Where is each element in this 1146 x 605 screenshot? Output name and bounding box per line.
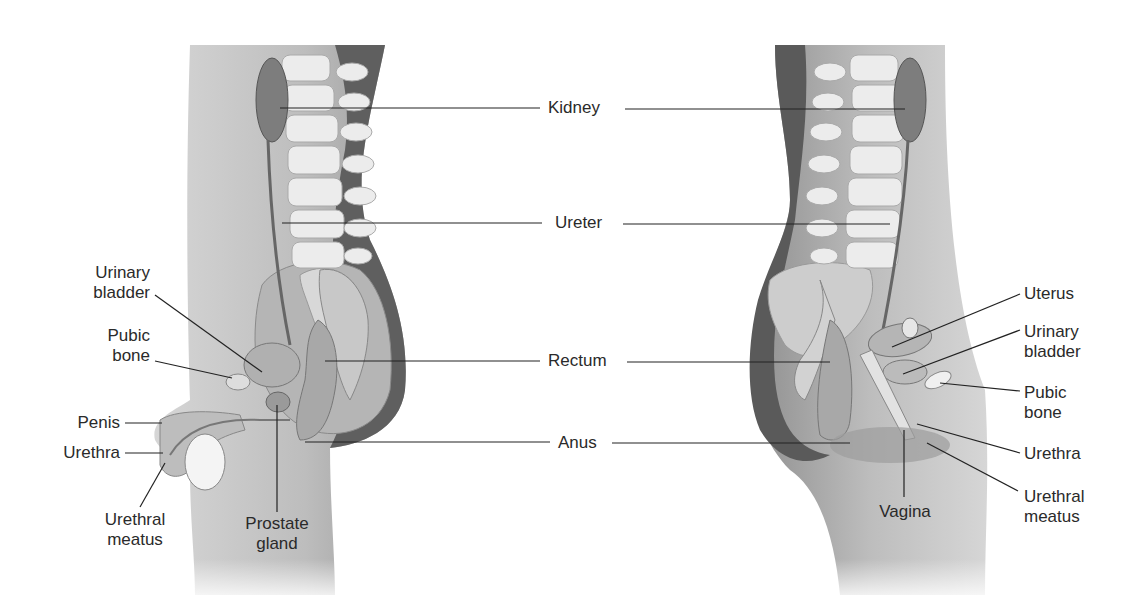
label-male-penis: Penis xyxy=(30,413,120,433)
label-female-urinary-bladder: Urinary bladder xyxy=(1024,322,1081,362)
label-ureter: Ureter xyxy=(555,213,602,233)
label-female-pubic-bone: Pubic bone xyxy=(1024,383,1067,423)
label-kidney: Kidney xyxy=(548,98,600,118)
urinary-system-diagram: Kidney Ureter Rectum Anus Urinary bladde… xyxy=(0,0,1146,605)
label-female-uterus: Uterus xyxy=(1024,284,1074,304)
label-female-urethral-meatus: Urethral meatus xyxy=(1024,487,1084,527)
label-male-urethra: Urethra xyxy=(30,443,120,463)
label-male-urinary-bladder: Urinary bladder xyxy=(60,263,150,303)
label-male-prostate-gland: Prostate gland xyxy=(227,514,327,554)
label-male-pubic-bone: Pubic bone xyxy=(60,326,150,366)
label-female-vagina: Vagina xyxy=(855,502,955,522)
label-rectum: Rectum xyxy=(548,351,607,371)
label-female-urethra: Urethra xyxy=(1024,444,1081,464)
label-male-urethral-meatus: Urethral meatus xyxy=(85,510,185,550)
label-anus: Anus xyxy=(558,433,597,453)
